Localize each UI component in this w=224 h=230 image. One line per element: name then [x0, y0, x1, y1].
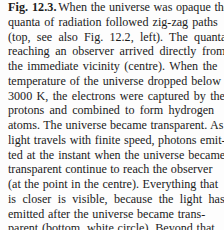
caption-line-text: quanta of radiation followed zig-zag pat… — [8, 15, 218, 30]
caption-line-text: ted at the instant when the universe bec… — [8, 148, 224, 163]
caption-line: (top, see also Fig. 12.2, left). The qua… — [8, 30, 217, 45]
caption-line-text: transparent continue to reach the observ… — [8, 162, 212, 177]
caption-line: the immediate vicinity (centre). When th… — [8, 59, 217, 74]
caption-text-block: Fig. 12.3.When the universe was opaque t… — [8, 0, 217, 230]
caption-line-text: the immediate vicinity (centre). When th… — [8, 59, 217, 74]
caption-line-text: protons and combined to form hydrogen — [8, 103, 214, 118]
figure-number-label: Fig. 12.3. — [8, 0, 57, 14]
caption-line: protons and combined to form hydrogen — [8, 103, 217, 118]
caption-line: quanta of radiation followed zig-zag pat… — [8, 15, 217, 30]
caption-line-text: (top, see also Fig. 12.2, left). The qua… — [8, 30, 224, 45]
caption-line-text: reaching an observer arrived directly fr… — [8, 44, 224, 59]
caption-line-text: 3000 K, the electrons were captured by t… — [8, 89, 224, 104]
caption-line: transparent continue to reach the observ… — [8, 162, 217, 177]
caption-line: reaching an observer arrived directly fr… — [8, 44, 217, 59]
caption-line-text: light travels with finite speed, photons… — [8, 133, 224, 148]
caption-line-text: When the universe was opaque the — [58, 0, 224, 15]
caption-line: temperature of the universe dropped belo… — [8, 74, 217, 89]
caption-line: Fig. 12.3.When the universe was opaque t… — [8, 0, 217, 15]
caption-line: atoms. The universe became transparent. … — [8, 118, 217, 133]
caption-line-text: emitted after the universe became trans- — [8, 207, 205, 222]
caption-line: (at the point in the centre). Everything… — [8, 177, 217, 192]
caption-line-text: (at the point in the centre). Everything… — [8, 177, 218, 192]
caption-line: emitted after the universe became trans- — [8, 207, 217, 222]
caption-line: parent (bottom, white circle). Beyond th… — [8, 221, 217, 230]
caption-line-text: parent (bottom, white circle). Beyond th… — [8, 221, 218, 230]
caption-line-text: atoms. The universe became transparent. … — [8, 118, 224, 133]
figure-caption-page: Fig. 12.3.When the universe was opaque t… — [0, 0, 224, 230]
caption-line: is closer is visible, because the light … — [8, 192, 217, 207]
caption-line: ted at the instant when the universe bec… — [8, 148, 217, 163]
caption-line-text: is closer is visible, because the light … — [8, 192, 224, 207]
caption-line: light travels with finite speed, photons… — [8, 133, 217, 148]
caption-line: 3000 K, the electrons were captured by t… — [8, 89, 217, 104]
caption-line-text: temperature of the universe dropped belo… — [8, 74, 221, 89]
